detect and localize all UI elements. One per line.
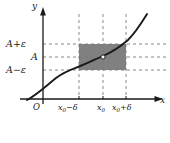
x-axis-label: x	[160, 96, 165, 105]
x-tick-x0-minus-delta-sub: 0	[63, 107, 66, 113]
y-axis-label: y	[32, 2, 37, 11]
limit-point-open-circle	[101, 55, 105, 59]
origin-label: O	[33, 103, 40, 112]
y-tick-label-a-minus-eps: A−ε	[6, 65, 26, 75]
y-tick-a-plus-eps-op: +	[13, 38, 21, 49]
x-tick-x0-minus-delta-sym: δ	[73, 103, 78, 112]
y-tick-a-minus-eps-op: −	[13, 64, 21, 75]
x-tick-x0-plus-delta-sym: δ	[127, 103, 132, 112]
y-tick-a-plus-eps-sym: ε	[21, 38, 26, 49]
x-tick-x0-minus-delta-base: x	[58, 103, 63, 112]
x-tick-label-x0-plus-delta: x0+δ	[112, 104, 132, 112]
y-tick-a-base: A	[31, 51, 38, 62]
x-tick-x0-plus-delta-sub: 0	[117, 107, 120, 113]
x-tick-x0-plus-delta-op: +	[120, 103, 127, 112]
y-tick-label-a-plus-eps: A+ε	[6, 39, 26, 49]
x-tick-x0-base: x	[97, 103, 102, 112]
y-tick-a-minus-eps-sym: ε	[21, 64, 26, 75]
x-tick-label-x0-minus-delta: x0−δ	[58, 104, 78, 112]
y-axis-arrow-icon	[40, 7, 46, 16]
x-tick-label-x0: x0	[97, 104, 105, 112]
x-tick-x0-plus-delta-base: x	[112, 103, 117, 112]
y-tick-a-minus-eps-base: A	[6, 64, 13, 75]
x-tick-x0-sub: 0	[102, 107, 105, 113]
x-tick-x0-minus-delta-op: −	[66, 103, 73, 112]
y-tick-a-plus-eps-base: A	[6, 38, 13, 49]
epsilon-delta-limit-figure: y x O A+ε A A−ε x0−δ x0 x0+δ	[0, 0, 170, 143]
y-tick-label-a: A	[31, 52, 38, 62]
